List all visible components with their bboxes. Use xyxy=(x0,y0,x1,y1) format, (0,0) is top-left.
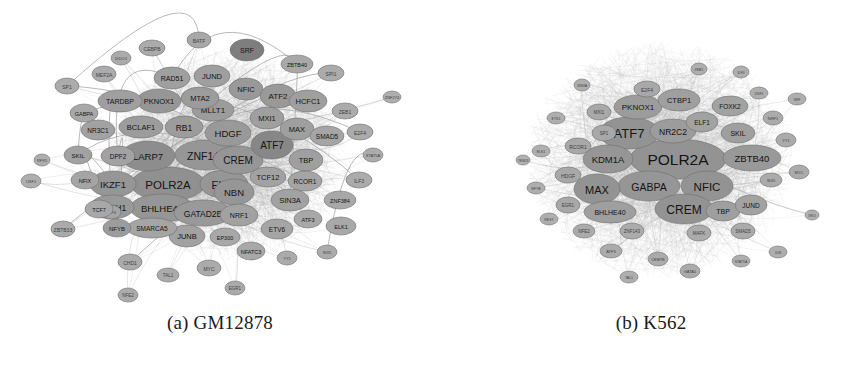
network-node[interactable]: SRF xyxy=(788,93,806,105)
network-node[interactable]: PKNOX1 xyxy=(137,89,181,113)
network-node[interactable]: MXI1 xyxy=(587,104,611,120)
network-node[interactable]: HCFC1 xyxy=(289,90,327,112)
network-node[interactable]: NFYB xyxy=(103,219,131,237)
network-node[interactable]: TRIM28 xyxy=(516,155,530,165)
network-node[interactable]: CEBPB xyxy=(139,40,165,56)
network-node[interactable]: YY1 xyxy=(776,133,796,147)
network-node[interactable]: NR3C1 xyxy=(81,120,115,140)
network-node[interactable]: ILF3 xyxy=(346,172,372,188)
network-node[interactable]: NFE2 xyxy=(118,288,138,302)
network-node[interactable]: NFIX xyxy=(71,171,99,189)
network-node[interactable]: YY1 xyxy=(277,251,297,265)
network-node[interactable]: FOXK2 xyxy=(712,96,748,116)
network-node[interactable]: TCF12 xyxy=(250,167,286,187)
network-node[interactable]: TAL1 xyxy=(620,271,638,283)
network-node[interactable]: NFYB xyxy=(527,182,545,194)
network-node[interactable]: USF1 xyxy=(21,174,41,188)
network-node[interactable]: ZNF384 xyxy=(324,191,356,209)
network-node[interactable]: RFX5 xyxy=(34,154,50,166)
network-node[interactable]: NFIC xyxy=(229,78,263,100)
network-node[interactable]: TARDBP xyxy=(98,90,142,112)
network-node[interactable]: SIN3A xyxy=(574,79,590,91)
network-node[interactable]: SP1 xyxy=(55,78,79,94)
network-node[interactable]: GABPA xyxy=(70,104,98,122)
network-node[interactable]: ELK1 xyxy=(532,145,550,157)
network-node[interactable]: SKIL xyxy=(721,123,755,143)
network-node[interactable]: MAX xyxy=(574,174,620,204)
network-node[interactable]: ATF3 xyxy=(294,210,322,228)
network-node[interactable]: NFATC3 xyxy=(237,242,265,260)
network-node[interactable]: USF1 xyxy=(750,87,768,99)
network-node[interactable]: SKIL xyxy=(64,146,92,164)
network-node[interactable]: SIN3A xyxy=(271,189,309,211)
network-node[interactable]: CREM xyxy=(655,194,713,224)
network-node[interactable]: ETS1 xyxy=(547,112,565,124)
network-node[interactable]: MYC xyxy=(789,165,809,179)
network-node[interactable]: KDM1A xyxy=(583,145,633,173)
network-node[interactable]: EGR1 xyxy=(556,197,580,213)
network-node[interactable]: SPI1 xyxy=(318,65,344,81)
network-node[interactable]: SP1 xyxy=(592,125,616,141)
network-node[interactable]: BCLAF1 xyxy=(119,116,163,138)
network-node[interactable]: GATA1 xyxy=(680,264,700,278)
network-node[interactable]: RCOR1 xyxy=(288,171,322,191)
network-node[interactable]: CEBPB xyxy=(648,252,668,266)
network-node[interactable]: ELK1 xyxy=(326,217,356,235)
network-node[interactable]: ILF3 xyxy=(733,66,749,78)
network-node[interactable]: ETV6 xyxy=(261,219,293,239)
node-ellipse xyxy=(634,81,660,97)
network-node[interactable]: HDGF xyxy=(555,167,581,183)
network-node[interactable]: MYC xyxy=(197,260,221,276)
network-node[interactable]: ATF3 xyxy=(600,244,622,258)
network-node[interactable]: RAD51 xyxy=(154,67,190,89)
network-node[interactable]: RB1 xyxy=(165,116,203,138)
network-node[interactable]: RCOR1 xyxy=(565,138,591,154)
network-node[interactable]: ELF1 xyxy=(686,112,718,132)
network-node[interactable]: ZEB1 xyxy=(691,63,707,75)
network-node[interactable]: SMAD5 xyxy=(310,126,344,146)
network-node[interactable]: DPF2 xyxy=(101,146,135,166)
network-node[interactable]: CHD1 xyxy=(118,254,142,270)
network-node[interactable]: NFE2 xyxy=(573,224,595,238)
network-node[interactable]: SMARCA5 xyxy=(127,218,177,238)
network-node[interactable]: STAT5A xyxy=(732,255,750,267)
network-node[interactable]: NRF1 xyxy=(763,111,783,125)
network-node[interactable]: BATF xyxy=(187,32,211,48)
network-node[interactable]: TAL1 xyxy=(157,268,179,282)
network-node[interactable]: ZBTB33 xyxy=(51,221,75,237)
network-node[interactable]: REST xyxy=(540,213,558,225)
network-node[interactable]: SIX5 xyxy=(317,245,337,259)
network-node[interactable]: DIDO1 xyxy=(111,51,131,65)
network-node[interactable]: E2F4 xyxy=(347,124,373,140)
network-node[interactable]: E2F4 xyxy=(634,81,660,97)
network-node[interactable]: ZEB1 xyxy=(332,103,358,119)
network-node[interactable]: NBN xyxy=(214,179,254,205)
network-node[interactable]: NRF1 xyxy=(220,204,258,226)
network-node[interactable]: MXI1 xyxy=(250,107,284,129)
network-node[interactable]: HDGF xyxy=(205,120,251,146)
network-node[interactable]: CHD1 xyxy=(805,210,819,220)
network-node[interactable]: BHLHE40 xyxy=(584,201,636,223)
network-node[interactable]: EP300 xyxy=(210,228,240,246)
network-node[interactable]: MEF2A xyxy=(92,66,116,82)
network-node[interactable]: MTA2 xyxy=(181,87,219,109)
network-node[interactable]: PKNOX1 xyxy=(614,95,662,119)
network-node[interactable]: JUN xyxy=(769,246,787,258)
network-node[interactable]: ZBTB40 xyxy=(723,145,781,171)
network-node[interactable]: STAT5A xyxy=(363,148,383,162)
node-ellipse xyxy=(363,148,383,162)
network-node[interactable]: TBP xyxy=(289,149,323,171)
network-node[interactable]: MAFK xyxy=(687,225,711,241)
network-node[interactable]: TCF7 xyxy=(85,200,113,218)
network-node[interactable]: ZNF143 xyxy=(620,223,644,239)
network-node[interactable]: SMAD5 xyxy=(731,223,755,239)
network-node[interactable]: ZNF274 xyxy=(383,91,401,103)
network-node[interactable]: ZBTB40 xyxy=(281,55,313,73)
network-node[interactable]: SIX5 xyxy=(760,173,782,187)
network-node[interactable]: EGR1 xyxy=(225,281,245,295)
network-node[interactable]: CTBP1 xyxy=(658,89,700,111)
network-node[interactable]: JUND xyxy=(735,195,767,215)
network-node[interactable]: MAX xyxy=(280,118,314,140)
network-node[interactable]: JUND xyxy=(194,65,230,87)
network-node[interactable]: SRF xyxy=(230,39,264,61)
